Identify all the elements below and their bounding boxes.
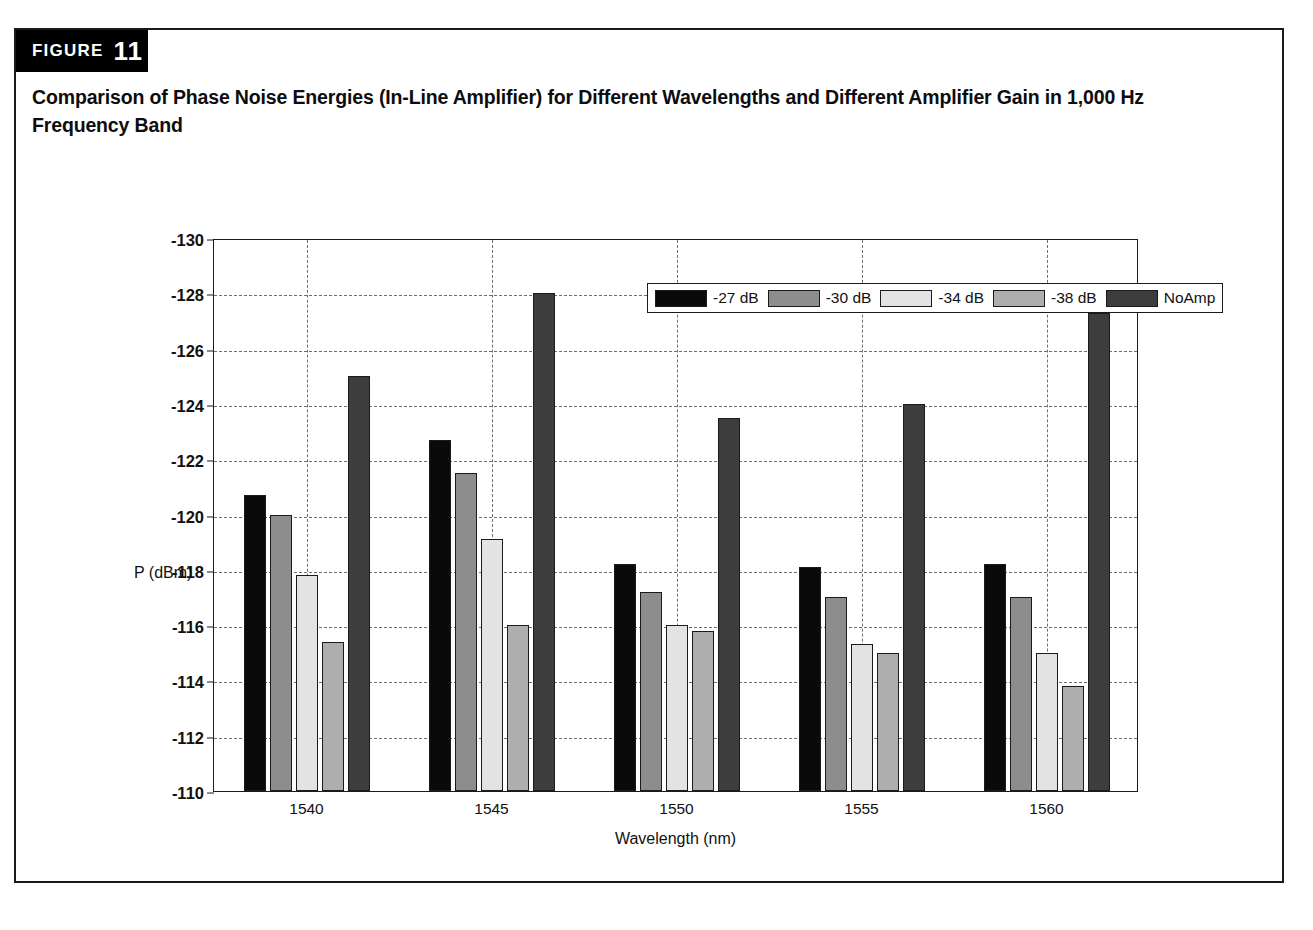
x-tick-label: 1550: [659, 800, 693, 818]
bar: [455, 473, 477, 791]
bar: [507, 625, 529, 791]
legend-swatch: [768, 290, 820, 307]
bar: [666, 625, 688, 791]
bar: [270, 515, 292, 792]
bar: [877, 653, 899, 791]
legend-label: -34 dB: [938, 289, 984, 307]
x-tick-label: 1555: [844, 800, 878, 818]
legend-swatch: [880, 290, 932, 307]
figure-frame: FIGURE 11 Comparison of Phase Noise Ener…: [14, 28, 1284, 883]
legend-swatch: [993, 290, 1045, 307]
bar: [640, 592, 662, 791]
y-tick-label: -130: [171, 231, 204, 250]
y-tick-mark: [207, 793, 214, 794]
legend-swatch: [1106, 290, 1158, 307]
bar: [429, 440, 451, 791]
y-tick-label: -114: [172, 673, 204, 692]
legend-label: -27 dB: [713, 289, 759, 307]
bar: [322, 642, 344, 791]
bar: [481, 539, 503, 791]
y-tick-mark: [207, 405, 214, 406]
y-tick-label: -112: [172, 728, 204, 747]
bar: [692, 631, 714, 791]
x-tick-label: 1540: [289, 800, 323, 818]
plot-area: -130-128-126-124-122-120-118-116-114-112…: [213, 239, 1138, 792]
y-tick-label: -126: [171, 341, 204, 360]
bar: [296, 575, 318, 791]
y-tick-mark: [207, 571, 214, 572]
bar: [984, 564, 1006, 791]
y-tick-mark: [207, 516, 214, 517]
y-tick-label: -120: [171, 507, 204, 526]
legend-entry[interactable]: -27 dB: [655, 289, 759, 307]
y-tick-label: -110: [172, 784, 204, 803]
bar: [1036, 653, 1058, 791]
y-tick-mark: [207, 627, 214, 628]
y-tick-mark: [207, 295, 214, 296]
bar: [1010, 597, 1032, 791]
y-tick-mark: [207, 461, 214, 462]
bar: [903, 404, 925, 791]
chart-region: P (dBm) Wavelength (nm) -130-128-126-124…: [16, 30, 1286, 885]
y-tick-mark: [207, 350, 214, 351]
x-axis-title: Wavelength (nm): [213, 830, 1138, 848]
legend-label: -38 dB: [1051, 289, 1097, 307]
y-tick-mark: [207, 240, 214, 241]
bar: [1088, 313, 1110, 791]
chart-legend: -27 dB-30 dB-34 dB-38 dBNoAmp: [647, 283, 1223, 313]
bar: [799, 567, 821, 791]
bar: [244, 495, 266, 791]
gridline-horizontal: [214, 351, 1137, 352]
y-tick-mark: [207, 682, 214, 683]
bar: [718, 418, 740, 791]
y-tick-mark: [207, 737, 214, 738]
bar: [1062, 686, 1084, 791]
y-tick-label: -128: [171, 286, 204, 305]
legend-label: -30 dB: [826, 289, 872, 307]
bar: [614, 564, 636, 791]
legend-swatch: [655, 290, 707, 307]
y-tick-label: -124: [171, 396, 204, 415]
legend-entry[interactable]: -34 dB: [880, 289, 984, 307]
legend-entry[interactable]: NoAmp: [1106, 289, 1216, 307]
x-tick-label: 1545: [474, 800, 508, 818]
bar: [825, 597, 847, 791]
bar: [348, 376, 370, 791]
bar: [851, 644, 873, 791]
legend-entry[interactable]: -30 dB: [768, 289, 872, 307]
legend-label: NoAmp: [1164, 289, 1216, 307]
y-tick-label: -116: [172, 618, 204, 637]
y-tick-label: -122: [171, 452, 204, 471]
bar: [533, 293, 555, 791]
legend-entry[interactable]: -38 dB: [993, 289, 1097, 307]
x-tick-label: 1560: [1029, 800, 1063, 818]
y-tick-label: -118: [172, 562, 204, 581]
